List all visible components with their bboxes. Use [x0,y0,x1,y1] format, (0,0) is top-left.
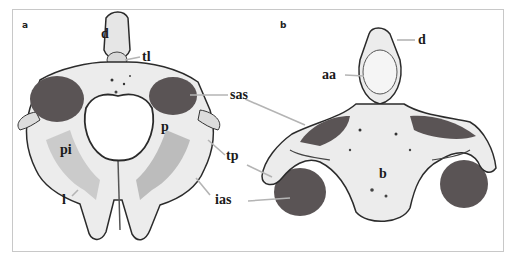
label-tp: tp [226,149,238,163]
label-p: p [161,120,169,134]
label-aa: aa [322,68,336,82]
label-dens-b: d [418,33,426,47]
label-tl: tl [142,50,151,64]
label-pi: pi [60,143,72,157]
label-ias: ias [215,193,231,207]
label-l: l [62,193,66,207]
label-dens-a: d [101,27,109,41]
caption-faint [20,253,23,259]
right-superior-articular-facet [149,77,197,115]
label-b: b [379,167,387,181]
panel-letter-a: a [22,20,28,30]
label-sas: sas [230,88,248,102]
vertebra-illustrations [0,0,514,263]
vertebra-posterior-view [18,12,220,240]
left-superior-articular-facet [30,76,84,122]
panel-letter-b: b [280,20,286,30]
vertebra-superior-view [262,28,496,221]
